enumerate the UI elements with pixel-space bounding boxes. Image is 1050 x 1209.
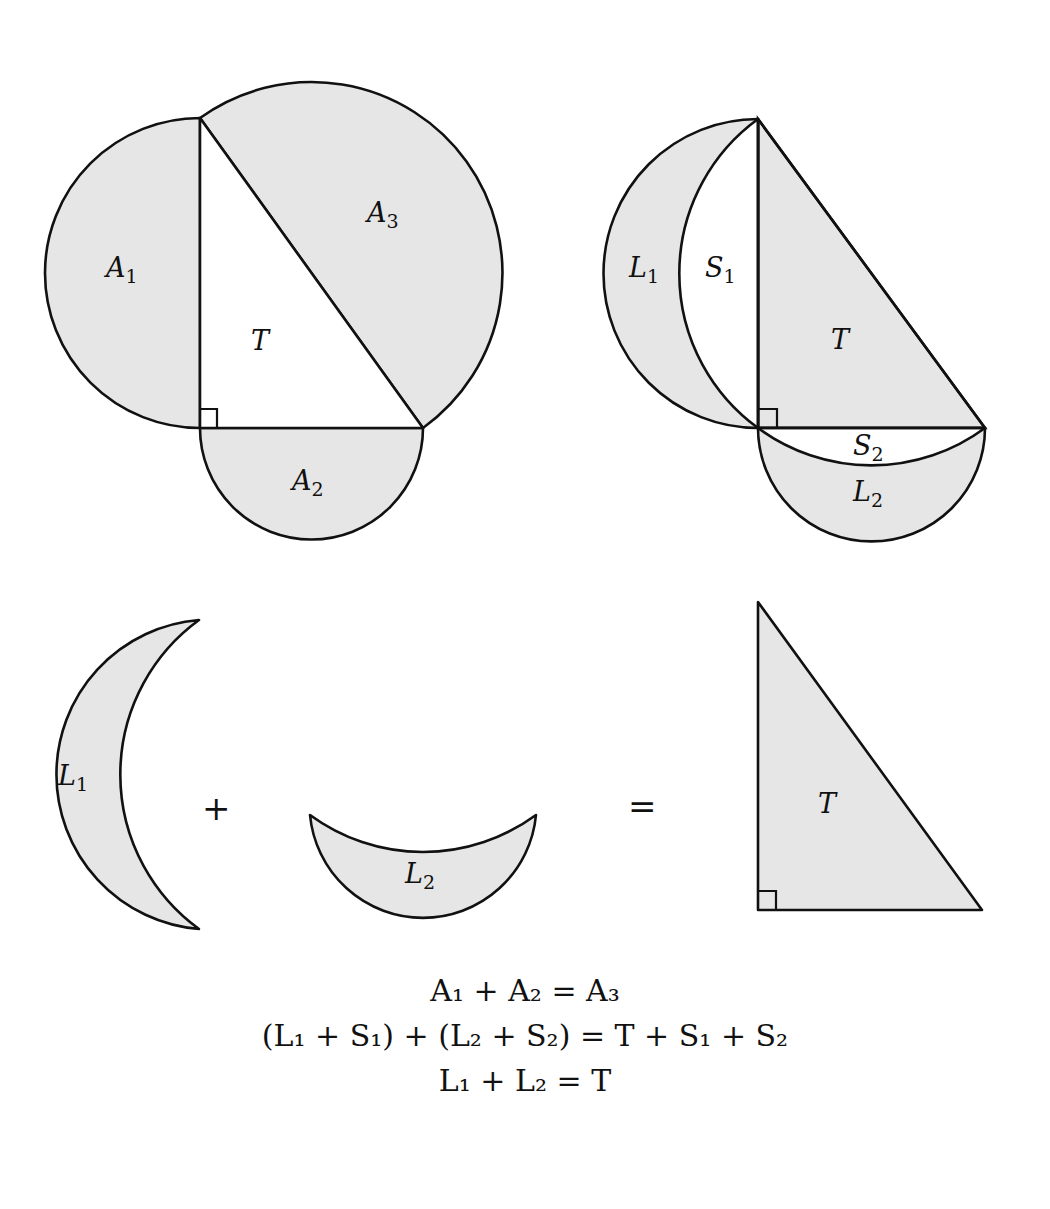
equals-sign: =: [628, 786, 657, 826]
label-t: T: [831, 324, 851, 355]
panel-semicircles: A1 A3 T A2: [45, 82, 502, 539]
equation-lunes: L₁ + L₂ = T: [0, 1058, 1050, 1103]
lune-l2: [310, 815, 536, 918]
panel-equation-shapes: L1 + L2 = T: [56, 602, 982, 929]
equation-semicircles: A₁ + A₂ = A₃: [0, 968, 1050, 1013]
label-t: T: [818, 788, 838, 819]
equations-block: A₁ + A₂ = A₃ (L₁ + S₁) + (L₂ + S₂) = T +…: [0, 968, 1050, 1103]
triangle-t: [758, 602, 982, 910]
panel-lunes: L1 S1 T S2 L2: [604, 119, 986, 541]
plus-sign: +: [202, 788, 231, 828]
label-t: T: [251, 325, 271, 356]
equation-expanded: (L₁ + S₁) + (L₂ + S₂) = T + S₁ + S₂: [0, 1013, 1050, 1058]
